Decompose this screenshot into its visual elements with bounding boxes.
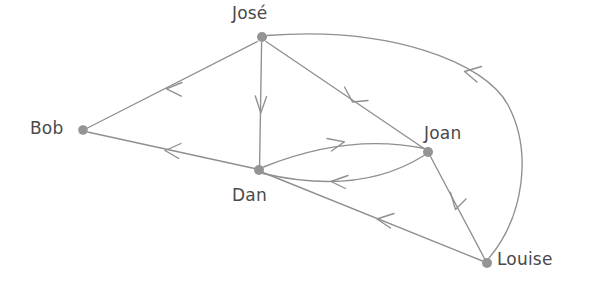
node-jose[interactable] (257, 32, 267, 42)
directed-graph-diagram: José Bob Dan Joan Louise (0, 0, 590, 289)
arrowhead-to-joan (345, 87, 369, 102)
arrowhead-to-joan (451, 193, 467, 210)
edge-line (264, 144, 425, 167)
arrowhead-to-dan (331, 176, 348, 189)
node-label-joan: Joan (424, 124, 461, 143)
edge-jose-dan (255, 43, 266, 166)
edge-line (260, 43, 262, 166)
edge-layer (88, 34, 523, 261)
edge-line (88, 42, 258, 129)
node-bob[interactable] (78, 125, 88, 135)
node-joan[interactable] (423, 147, 433, 157)
node-layer (78, 32, 492, 268)
arrowhead-to-dan (377, 214, 394, 229)
edge-dan-bob (88, 132, 255, 169)
edge-louise-dan (263, 173, 483, 262)
edge-line (88, 132, 255, 169)
edge-dan-joan (264, 139, 425, 168)
graph-canvas (0, 0, 590, 289)
edge-joan-dan (263, 156, 424, 189)
edge-line (263, 173, 483, 262)
node-label-jose: José (232, 4, 268, 23)
node-label-louise: Louise (497, 250, 553, 269)
edge-jose-joan (266, 42, 424, 149)
edge-jose-bob (88, 42, 258, 129)
node-label-dan: Dan (232, 186, 267, 205)
edge-line (266, 42, 424, 149)
node-louise[interactable] (482, 258, 492, 268)
node-label-bob: Bob (30, 119, 63, 138)
node-dan[interactable] (254, 165, 264, 175)
arrowhead-to-joan (327, 139, 345, 152)
